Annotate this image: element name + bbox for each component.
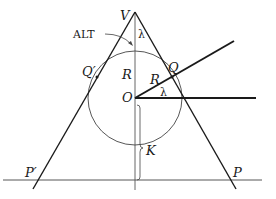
label-o: O — [122, 90, 133, 105]
label-lambda-center: λ — [160, 86, 167, 99]
label-p: P — [232, 165, 242, 180]
k-brace — [137, 105, 143, 180]
label-p-prime: P′ — [24, 165, 37, 180]
label-lambda-top: λ — [138, 28, 145, 41]
point-q-dot — [171, 76, 174, 79]
label-q-prime: Q′ — [82, 64, 96, 79]
label-alt: ALT — [72, 28, 95, 41]
label-q: Q — [168, 60, 179, 75]
ray-oq — [135, 41, 234, 98]
label-r-vertical: R — [121, 67, 132, 82]
point-q-prime-dot — [96, 76, 99, 79]
cone-right-side — [135, 12, 236, 189]
label-r-ray: R — [149, 72, 160, 87]
label-v: V — [120, 8, 131, 23]
cone-circle-diagram: V ALT λ Q′ R Q R λ O K P′ P — [0, 0, 276, 199]
diagram-svg: V ALT λ Q′ R Q R λ O K P′ P — [0, 0, 276, 199]
label-k: K — [145, 143, 157, 158]
